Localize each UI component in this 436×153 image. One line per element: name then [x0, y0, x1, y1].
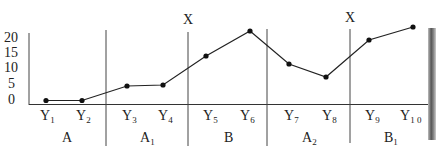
- y-tick-10: 10: [4, 60, 18, 75]
- point-label-y8: Y8: [322, 108, 337, 125]
- point-label-y7: Y7: [284, 108, 299, 125]
- single-case-design-chart: 20 15 10 5 0 X X Y1 Y2 Y3 Y4 Y5 Y6: [0, 0, 436, 153]
- y-tick-0: 0: [8, 92, 15, 107]
- phase-label-b: B: [224, 130, 233, 145]
- data-points: [43, 24, 415, 103]
- phase-label-a1: A1: [140, 130, 155, 147]
- point-label-y3: Y3: [122, 108, 137, 125]
- marker-x-2: X: [345, 10, 355, 25]
- scan-edge-artifact: [428, 28, 436, 140]
- point-label-y9: Y9: [365, 108, 380, 125]
- y-tick-15: 15: [4, 45, 18, 60]
- point-label-y5: Y5: [203, 108, 218, 125]
- phase-dividers: [106, 29, 350, 146]
- phase-label-a2: A2: [302, 130, 317, 147]
- y-tick-20: 20: [4, 30, 18, 45]
- phase-label-a: A: [62, 130, 73, 145]
- x-category-labels: Y1 Y2 Y3 Y4 Y5 Y6 Y7 Y8 Y9 Y1 0: [40, 108, 422, 125]
- y-axis-ticks: 20 15 10 5 0: [4, 30, 18, 107]
- point-label-y6: Y6: [240, 108, 255, 125]
- data-line: [46, 27, 413, 101]
- y-tick-5: 5: [8, 76, 15, 91]
- phase-label-b1: B1: [384, 130, 398, 147]
- phase-labels: A A1 B A2 B1: [62, 130, 398, 147]
- marker-x-1: X: [183, 12, 193, 27]
- point-label-y1: Y1: [40, 108, 55, 125]
- point-label-y10: Y1 0: [400, 108, 422, 125]
- point-label-y4: Y4: [158, 108, 173, 125]
- point-label-y2: Y2: [76, 108, 91, 125]
